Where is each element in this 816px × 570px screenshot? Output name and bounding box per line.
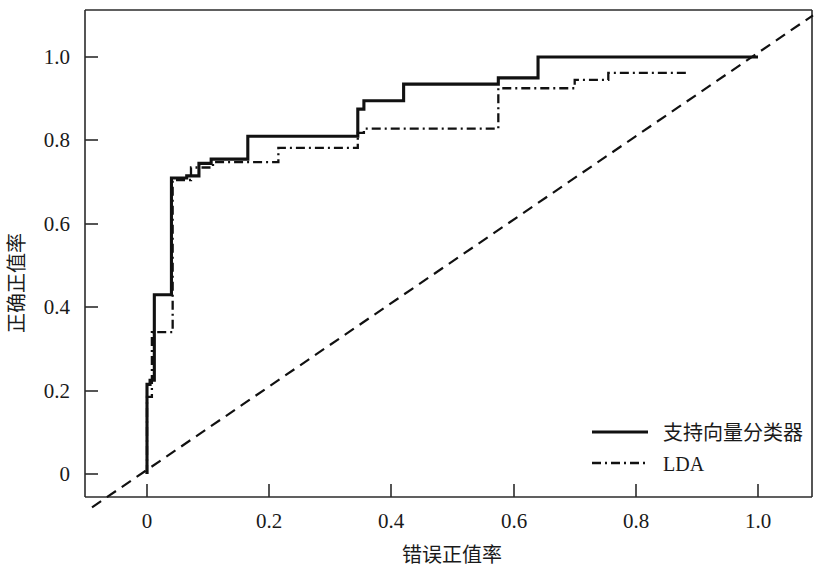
- roc-chart: 1.0 0.8 0.6 0.4 0.2 0 0 0.2 0.4 0.6 0.8 …: [0, 0, 816, 570]
- y-tick-label: 0.8: [44, 128, 70, 152]
- x-tick-label: 0.2: [256, 509, 282, 533]
- x-tick-label: 0.6: [501, 509, 527, 533]
- y-tick-label: 0.4: [44, 295, 71, 319]
- y-tick-label: 0.6: [44, 212, 70, 236]
- y-tick-label: 1.0: [44, 45, 70, 69]
- svc-roc-curve: [147, 57, 758, 474]
- x-tick-label: 1.0: [745, 509, 771, 533]
- y-tick-label: 0.2: [44, 379, 70, 403]
- x-axis-ticks: [147, 484, 758, 497]
- x-tick-label: 0.4: [378, 509, 405, 533]
- y-axis-ticks: [85, 57, 98, 474]
- y-axis-tick-labels: 1.0 0.8 0.6 0.4 0.2 0: [44, 45, 71, 486]
- y-axis-title: 正确正值率: [6, 233, 28, 333]
- roc-plot-svg: 1.0 0.8 0.6 0.4 0.2 0 0 0.2 0.4 0.6 0.8 …: [0, 0, 816, 570]
- y-tick-label: 0: [60, 462, 71, 486]
- legend-label-svc: 支持向量分类器: [663, 422, 803, 444]
- x-tick-label: 0: [142, 509, 153, 533]
- x-axis-title: 错误正值率: [402, 544, 502, 566]
- legend: 支持向量分类器 LDA: [592, 422, 803, 475]
- x-tick-label: 0.8: [623, 509, 649, 533]
- x-axis-tick-labels: 0 0.2 0.4 0.6 0.8 1.0: [142, 509, 771, 533]
- legend-label-lda: LDA: [663, 453, 705, 475]
